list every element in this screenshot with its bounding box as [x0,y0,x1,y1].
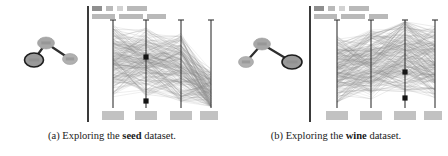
graph-node-hub[interactable] [254,38,271,50]
graph-node-selected-label-glyph [29,58,39,61]
chip-label-1[interactable] [92,6,102,11]
brush-marker-lower[interactable] [143,98,148,103]
graph-node-selected[interactable] [282,55,302,69]
graph-node-leaf-label-glyph [242,60,250,63]
brush-marker-lower[interactable] [402,95,407,100]
chip-label-1[interactable] [314,6,324,11]
caption-b-prefix: (b) Exploring the [271,130,343,141]
graph-node-hub-label-glyph [257,42,266,45]
header-chip-row-2-a[interactable] [92,14,166,19]
graph-node-hub[interactable] [38,37,55,49]
axis-label-3[interactable] [170,111,192,120]
chip-filter-3[interactable] [369,14,388,19]
brush-marker-upper[interactable] [402,69,407,74]
chip-label-2[interactable] [106,6,113,11]
parallel-coordinates-view-b[interactable] [313,2,442,126]
caption-b-emphasis: wine [346,130,367,141]
graph-node-selected-label-glyph [287,60,298,63]
pcp-lines [337,22,435,103]
axis-label-4[interactable] [424,111,442,120]
chip-filter-1[interactable] [314,14,337,19]
axis-label-3[interactable] [394,111,416,120]
caption-a-suffix: dataset. [144,130,176,141]
header-chip-row-1-b[interactable] [314,6,369,11]
axis-label-2[interactable] [135,111,157,120]
application-panel-a [6,2,218,126]
pcp-lines [113,25,211,107]
chip-label-4[interactable] [127,6,147,11]
chip-label-3[interactable] [339,6,345,11]
graph-node-selected[interactable] [25,53,44,67]
header-chip-row-1-a[interactable] [92,6,147,11]
figure-container: (a) Exploring the seed dataset. (b) Expl… [0,0,448,156]
node-link-view-b[interactable] [230,2,308,126]
graph-node-leaf-label-glyph [66,57,74,60]
application-panel-b [230,2,442,126]
parallel-coordinates-svg-b [313,2,442,126]
chip-label-2[interactable] [328,6,335,11]
chip-filter-2[interactable] [341,14,365,19]
panel-divider-a [87,6,89,122]
subfigure-b: (b) Exploring the wine dataset. [224,0,448,156]
chip-filter-3[interactable] [147,14,166,19]
graph-node-hub-label-glyph [41,41,50,44]
axis-label-1[interactable] [326,111,348,120]
caption-a-prefix: (a) Exploring the [48,130,120,141]
header-chip-row-2-b[interactable] [314,14,388,19]
chip-label-4[interactable] [349,6,369,11]
axis-label-1[interactable] [102,111,124,120]
graph-node-leaf[interactable] [239,57,254,68]
subfigure-a: (a) Exploring the seed dataset. [0,0,224,156]
caption-a-emphasis: seed [122,130,141,141]
chip-filter-2[interactable] [119,14,143,19]
caption-a: (a) Exploring the seed dataset. [0,130,224,141]
graph-node-leaf[interactable] [63,54,78,65]
parallel-coordinates-view-a[interactable] [91,2,218,126]
chip-filter-1[interactable] [92,14,115,19]
brush-marker-upper[interactable] [143,54,148,59]
caption-b-suffix: dataset. [369,130,401,141]
node-link-view-a[interactable] [6,2,84,126]
axis-label-4[interactable] [200,111,218,120]
node-link-svg-b [230,2,308,126]
panel-divider-b [309,6,311,122]
node-link-svg-a [6,2,84,126]
axis-label-2[interactable] [360,111,382,120]
caption-b: (b) Exploring the wine dataset. [224,130,448,141]
chip-label-3[interactable] [117,6,123,11]
parallel-coordinates-svg-a [91,2,218,126]
